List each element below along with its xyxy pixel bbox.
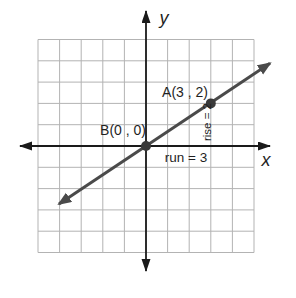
x-axis-label: x: [262, 150, 271, 171]
coordinate-plane: [0, 0, 296, 298]
point-b-dot: [141, 141, 151, 151]
point-a-label: A(3 , 2): [162, 84, 208, 100]
slope-diagram: y x A(3 , 2) B(0 , 0) run = 3 rise = 2: [0, 0, 296, 298]
point-b-label: B(0 , 0): [100, 122, 146, 138]
rise-annotation: rise = 2: [201, 103, 213, 141]
y-axis-label: y: [160, 8, 169, 29]
run-annotation: run = 3: [165, 150, 207, 165]
